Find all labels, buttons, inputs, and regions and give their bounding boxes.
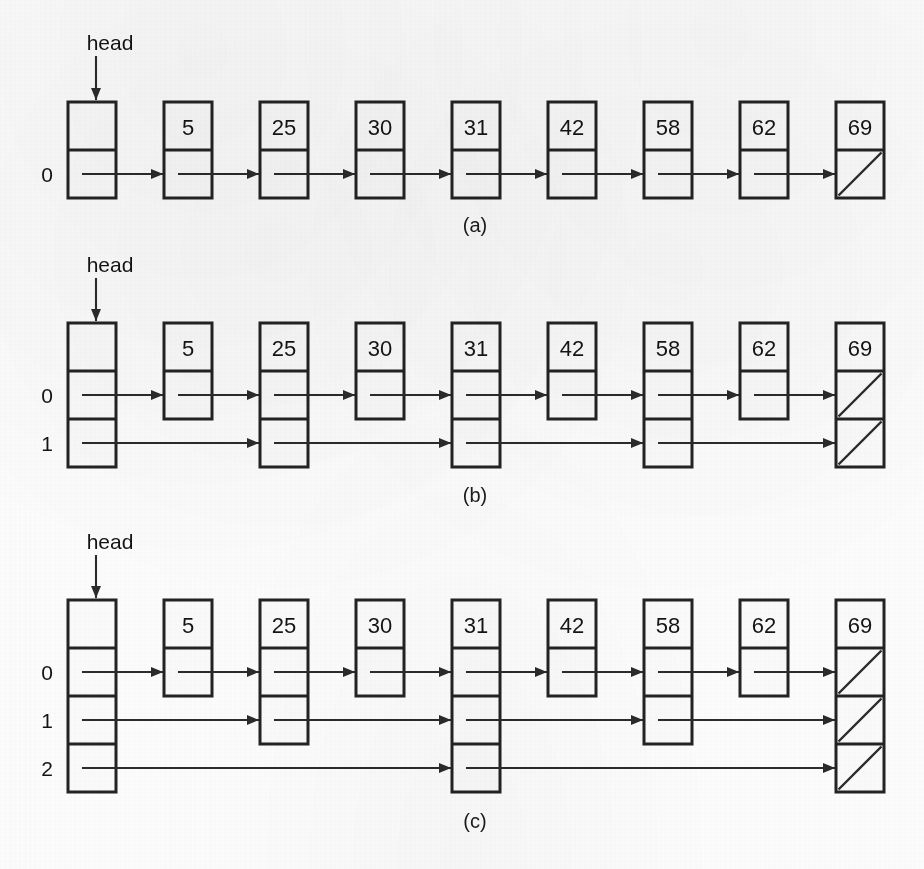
panel-caption-a: (a) xyxy=(463,214,487,236)
node-key-value: 25 xyxy=(272,613,296,638)
skip-list-node-31: 31 xyxy=(452,600,500,792)
node-key-value: 62 xyxy=(752,115,776,140)
node-key-value: 69 xyxy=(848,613,872,638)
skip-list-node-42: 42 xyxy=(548,323,596,419)
skip-list-node-69: 69 xyxy=(836,323,884,467)
skip-list-figure: head0525303142586269(a)head0152530314258… xyxy=(0,0,924,869)
skip-list-node-58: 58 xyxy=(644,102,692,198)
node-key-value: 5 xyxy=(182,115,194,140)
node-key-value: 62 xyxy=(752,613,776,638)
node-key-value: 31 xyxy=(464,115,488,140)
node-key-value: 42 xyxy=(560,336,584,361)
skip-list-node-42: 42 xyxy=(548,102,596,198)
skip-list-node-62: 62 xyxy=(740,323,788,419)
head-pointer-label: head xyxy=(87,530,134,553)
head-pointer-label: head xyxy=(87,253,134,276)
head-node xyxy=(68,102,116,198)
skip-list-node-5: 5 xyxy=(164,102,212,198)
skip-list-canvas: head0525303142586269(a)head0152530314258… xyxy=(0,0,924,869)
node-key-value: 30 xyxy=(368,115,392,140)
skip-list-node-30: 30 xyxy=(356,102,404,198)
head-pointer-label: head xyxy=(87,31,134,54)
node-key-value: 58 xyxy=(656,613,680,638)
panel-caption-b: (b) xyxy=(463,484,487,506)
node-key-value: 31 xyxy=(464,336,488,361)
panel-caption-c: (c) xyxy=(463,810,486,832)
skip-list-node-62: 62 xyxy=(740,102,788,198)
node-key-value: 5 xyxy=(182,613,194,638)
skip-list-node-5: 5 xyxy=(164,600,212,696)
node-key-value: 30 xyxy=(368,336,392,361)
node-key-value: 31 xyxy=(464,613,488,638)
skip-list-panel-b: head01525303142586269(b) xyxy=(41,253,884,506)
level-label-2: 2 xyxy=(41,757,53,780)
node-key-value: 69 xyxy=(848,336,872,361)
skip-list-node-31: 31 xyxy=(452,102,500,198)
node-key-value: 58 xyxy=(656,115,680,140)
level-label-1: 1 xyxy=(41,709,53,732)
skip-list-node-69: 69 xyxy=(836,102,884,198)
skip-list-node-42: 42 xyxy=(548,600,596,696)
skip-list-panel-c: head012525303142586269(c) xyxy=(41,530,884,832)
head-node xyxy=(68,600,116,792)
skip-list-node-5: 5 xyxy=(164,323,212,419)
node-key-value: 42 xyxy=(560,613,584,638)
skip-list-node-62: 62 xyxy=(740,600,788,696)
node-key-value: 25 xyxy=(272,115,296,140)
node-key-value: 69 xyxy=(848,115,872,140)
node-key-value: 62 xyxy=(752,336,776,361)
level-label-0: 0 xyxy=(41,384,53,407)
node-key-value: 25 xyxy=(272,336,296,361)
skip-list-panel-a: head0525303142586269(a) xyxy=(41,31,884,236)
level-label-0: 0 xyxy=(41,163,53,186)
skip-list-node-25: 25 xyxy=(260,102,308,198)
node-key-value: 5 xyxy=(182,336,194,361)
node-key-value: 42 xyxy=(560,115,584,140)
level-label-0: 0 xyxy=(41,661,53,684)
node-key-value: 58 xyxy=(656,336,680,361)
skip-list-node-69: 69 xyxy=(836,600,884,792)
level-label-1: 1 xyxy=(41,432,53,455)
node-key-value: 30 xyxy=(368,613,392,638)
skip-list-node-30: 30 xyxy=(356,600,404,696)
skip-list-node-30: 30 xyxy=(356,323,404,419)
